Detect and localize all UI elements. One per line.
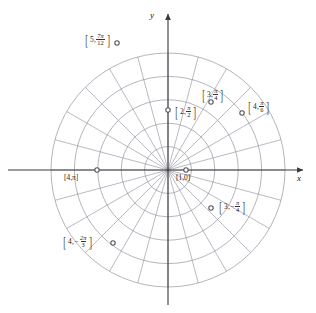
point-label-3-neg-pi-4: [ 3 , − π 4 ] [218, 200, 246, 214]
fraction-denominator: 12 [96, 39, 104, 46]
point-label-1-0: [1,0] [176, 174, 190, 181]
coord-expression: [ 4 , − 2π 3 ] [62, 235, 93, 249]
fraction-denominator: 4 [213, 94, 218, 101]
polar-plot-figure: y x [ 5 , 7π 12 ] [ 3 , π 4 ] [ [0, 0, 316, 313]
coord-expression: [ 2 , π 2 ] [174, 105, 197, 119]
coord-expression: [ 4 , π 6 ] [247, 100, 270, 114]
angle-fraction: 2π 3 [79, 235, 87, 249]
point-label-4-pi-6: [ 4 , π 6 ] [247, 100, 270, 114]
angle-fraction: π 6 [259, 100, 264, 114]
polar-grid-svg [0, 0, 316, 313]
point-label-3-pi-4: [ 3 , π 4 ] [201, 88, 224, 102]
point-label-4-pi: [4,π] [64, 174, 78, 181]
fraction-denominator: 4 [235, 206, 240, 213]
angle-fraction: π 4 [213, 88, 218, 102]
fraction-denominator: 2 [186, 111, 191, 118]
point-marker [184, 168, 188, 172]
coord-expression: [ 5 , 7π 12 ] [84, 33, 111, 47]
point-label-4-neg-2pi-3: [ 4 , − 2π 3 ] [62, 235, 93, 249]
fraction-denominator: 6 [259, 106, 264, 113]
coord-expression: [ 3 , − π 4 ] [218, 200, 246, 214]
coord-expression: [ 3 , π 4 ] [201, 88, 224, 102]
cartesian-axes [8, 14, 303, 305]
point-marker [95, 168, 99, 172]
point-label-2-pi-2: [ 2 , π 2 ] [174, 105, 197, 119]
point-marker [166, 108, 170, 112]
y-axis-label: y [150, 10, 154, 20]
point-marker [240, 111, 244, 115]
minus-sign: − [230, 203, 234, 210]
minus-sign: − [74, 238, 78, 245]
angle-fraction: π 2 [186, 105, 191, 119]
point-marker [111, 241, 115, 245]
fraction-denominator: 3 [81, 241, 86, 248]
point-marker [115, 41, 119, 45]
point-label-5-7pi-12: [ 5 , 7π 12 ] [84, 33, 111, 47]
angle-fraction: 7π 12 [96, 33, 104, 47]
x-axis-label: x [297, 173, 301, 183]
angle-fraction: π 4 [235, 200, 240, 214]
point-marker [209, 206, 213, 210]
